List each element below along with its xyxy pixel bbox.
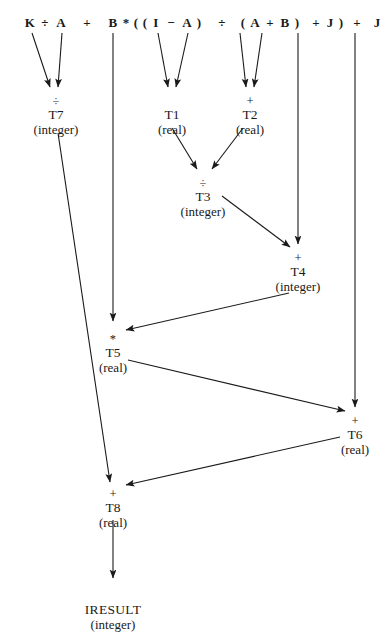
node-type-label: (real) <box>158 122 186 137</box>
expression-token: A <box>250 16 260 29</box>
dag-node-t5: *T5(real) <box>99 334 127 375</box>
node-label: T3 <box>181 189 226 204</box>
node-label: IRESULT <box>85 602 141 617</box>
node-operator: * <box>99 334 127 345</box>
node-label: T7 <box>34 107 79 122</box>
node-type-label: (integer) <box>34 122 79 137</box>
expression-token: ÷ <box>41 16 48 29</box>
node-label: T2 <box>236 107 264 122</box>
node-operator: + <box>99 489 127 500</box>
expression-token: A <box>56 16 66 29</box>
expression-token: ÷ <box>218 16 225 29</box>
node-label: T5 <box>99 345 127 360</box>
node-type-label: (real) <box>99 515 127 530</box>
expression-token: + <box>266 16 274 29</box>
expression-token: ( <box>134 16 139 29</box>
dag-node-t8: +T8(real) <box>99 489 127 530</box>
expression-dag-diagram: K÷A+B*((I−A)÷(A+B)+J)+J ÷T7(integer)T1(r… <box>0 0 387 644</box>
edge-t5-to-t6 <box>128 360 345 411</box>
dag-node-t7: ÷T7(integer) <box>34 96 79 137</box>
node-operator: + <box>341 416 369 427</box>
node-operator <box>85 591 141 602</box>
expression-token: + <box>312 16 320 29</box>
node-label: T4 <box>276 264 321 279</box>
node-type-label: (integer) <box>276 279 321 294</box>
dag-node-t2: +T2(real) <box>236 96 264 137</box>
edge-a2-to-t1 <box>176 33 188 87</box>
expression-token: − <box>167 16 175 29</box>
edge-a-to-t7 <box>58 33 62 87</box>
edge-t7-to-t8 <box>58 133 110 482</box>
node-type-label: (integer) <box>85 617 141 632</box>
edge-i-to-t1 <box>158 33 168 87</box>
node-label: T8 <box>99 500 127 515</box>
edge-t6-to-t8 <box>126 437 340 485</box>
expression-token: ( <box>143 16 148 29</box>
node-operator: + <box>236 96 264 107</box>
dag-node-t3: ÷T3(integer) <box>181 178 226 219</box>
edge-k-to-t7 <box>32 33 50 87</box>
node-label: T1 <box>158 107 186 122</box>
node-label: T6 <box>341 427 369 442</box>
node-type-label: (real) <box>99 360 127 375</box>
expression-token: * <box>123 16 130 29</box>
dag-node-iresult: IRESULT(integer) <box>85 591 141 632</box>
edge-a3-to-t2 <box>240 33 246 87</box>
expression-token: K <box>25 16 35 29</box>
expression-token: + <box>83 16 91 29</box>
node-type-label: (real) <box>341 442 369 457</box>
node-type-label: (real) <box>236 122 264 137</box>
edge-b2-to-t2 <box>254 33 262 87</box>
dag-node-t4: +T4(integer) <box>276 253 321 294</box>
expression-token: ) <box>197 16 202 29</box>
node-type-label: (integer) <box>181 204 226 219</box>
expression-token: I <box>153 16 158 29</box>
node-operator: ÷ <box>181 178 226 189</box>
dag-node-t6: +T6(real) <box>341 416 369 457</box>
node-operator: ÷ <box>34 96 79 107</box>
dag-node-t1: T1(real) <box>158 96 186 137</box>
expression-token: ) <box>295 16 300 29</box>
node-operator: + <box>276 253 321 264</box>
node-operator <box>158 96 186 107</box>
expression-token: J <box>374 16 381 29</box>
expression-token: B <box>281 16 290 29</box>
edge-t4-to-t5 <box>126 293 289 330</box>
expression-token: + <box>353 16 361 29</box>
expression-token: A <box>182 16 192 29</box>
expression-token: B <box>109 16 118 29</box>
expression-token: ( <box>241 16 246 29</box>
expression-token: J <box>327 16 334 29</box>
edge-t3-to-t4 <box>222 196 290 247</box>
expression-token: ) <box>339 16 344 29</box>
